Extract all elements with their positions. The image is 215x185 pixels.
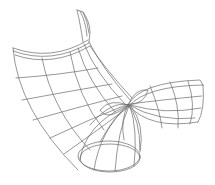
left-edge [13,48,78,170]
main-sheet-longitudinal [42,42,132,150]
bottom-opening [78,141,140,172]
top-strip [77,10,90,42]
surface-mesh [13,10,203,172]
wireframe-surface-svg [0,0,215,185]
wireframe-figure [0,0,215,185]
right-lobe [128,80,203,128]
lower-tube-meridians [80,106,141,171]
